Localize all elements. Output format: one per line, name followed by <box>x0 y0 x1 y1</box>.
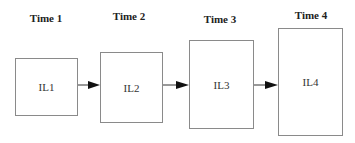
arrow-il1-il2 <box>78 81 100 89</box>
arrow-il3-il4 <box>254 81 278 89</box>
arrows-layer <box>0 0 355 143</box>
arrow-il2-il3 <box>163 81 189 89</box>
